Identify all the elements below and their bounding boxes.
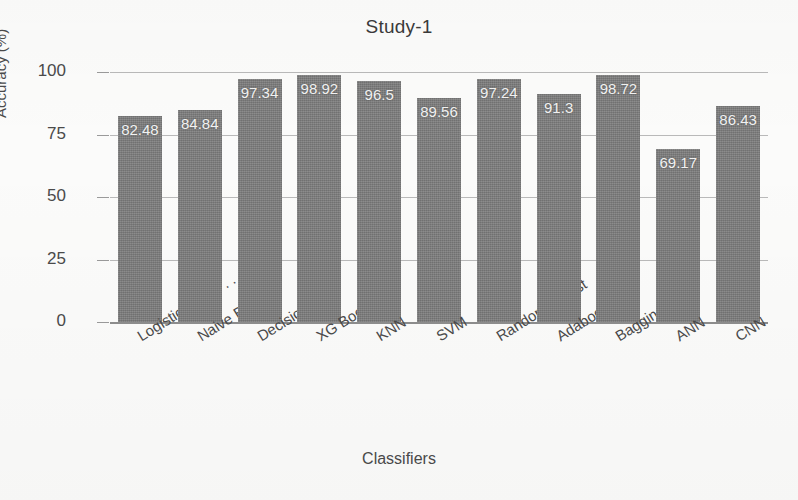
- y-tick-label: 75: [6, 124, 66, 144]
- bar[interactable]: [297, 75, 341, 322]
- y-tick-mark-100: [97, 72, 109, 73]
- bar-group[interactable]: 96.5: [357, 72, 401, 322]
- bar-value-label: 82.48: [121, 121, 159, 138]
- bar-value-label: 97.34: [241, 84, 279, 101]
- plot-area: 025507510082.48Logistic Regre . . .84.84…: [110, 72, 768, 322]
- bar-group[interactable]: 82.48: [118, 72, 162, 322]
- chart-page: Study-1 Accuracy (%) 025507510082.48Logi…: [0, 0, 798, 500]
- bar-group[interactable]: 69.17: [656, 72, 700, 322]
- bar-value-label: 84.84: [181, 115, 219, 132]
- bar-group[interactable]: 98.92: [297, 72, 341, 322]
- bar-group[interactable]: 89.56: [417, 72, 461, 322]
- bar-group[interactable]: 91.3: [537, 72, 581, 322]
- bar-group[interactable]: 98.72: [596, 72, 640, 322]
- bar-value-label: 69.17: [659, 154, 697, 171]
- bar[interactable]: [477, 79, 521, 322]
- chart-title: Study-1: [0, 16, 798, 38]
- bar[interactable]: [357, 81, 401, 322]
- bar[interactable]: [118, 116, 162, 322]
- bar[interactable]: [716, 106, 760, 322]
- bar-group[interactable]: 84.84: [178, 72, 222, 322]
- y-tick-label: 0: [6, 311, 66, 331]
- bar-group[interactable]: 97.34: [238, 72, 282, 322]
- bar[interactable]: [537, 94, 581, 322]
- y-tick-label: 25: [6, 249, 66, 269]
- y-tick-mark-50: [97, 197, 109, 198]
- bar-value-label: 86.43: [719, 111, 757, 128]
- y-tick-mark-25: [97, 260, 109, 261]
- x-axis-title: Classifiers: [0, 450, 798, 468]
- bar-value-label: 96.5: [365, 86, 394, 103]
- y-tick-mark-0: [97, 322, 109, 323]
- bar[interactable]: [596, 75, 640, 322]
- y-tick-mark-75: [97, 135, 109, 136]
- bar-value-label: 98.92: [301, 80, 339, 97]
- bar[interactable]: [178, 110, 222, 322]
- bar-value-label: 98.72: [600, 80, 638, 97]
- y-tick-label: 50: [6, 186, 66, 206]
- bar-group[interactable]: 86.43: [716, 72, 760, 322]
- bar[interactable]: [238, 79, 282, 322]
- bar[interactable]: [417, 98, 461, 322]
- bar-group[interactable]: 97.24: [477, 72, 521, 322]
- bar-value-label: 97.24: [480, 84, 518, 101]
- bar[interactable]: [656, 149, 700, 322]
- bar-value-label: 91.3: [544, 99, 573, 116]
- y-tick-label: 100: [6, 61, 66, 81]
- bar-value-label: 89.56: [420, 103, 458, 120]
